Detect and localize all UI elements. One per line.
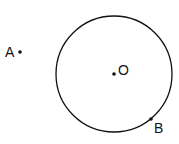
point-b-dot [149,117,153,121]
point-o-label: O [118,62,129,78]
point-a-dot [18,50,22,54]
geometry-diagram: A O B [0,0,179,144]
point-b-label: B [154,120,163,136]
point-o-dot [112,72,116,76]
point-a-label: A [5,44,15,60]
